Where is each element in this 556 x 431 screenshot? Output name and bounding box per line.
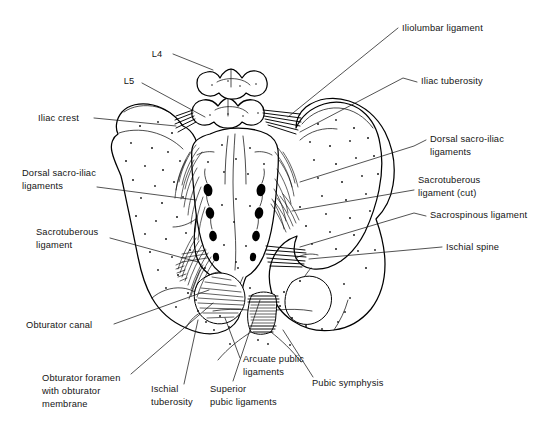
label-line: Iliolumbar ligament xyxy=(402,23,483,33)
leader-line-l4 xyxy=(173,54,213,70)
leader-line-sacrotuberous-ligament-cut xyxy=(292,190,414,211)
label-line: Sacrospinous ligament xyxy=(430,210,527,220)
label-l4: L4 xyxy=(152,49,163,59)
label-line: Sacrotuberous xyxy=(418,175,481,185)
label-line: Dorsal sacro-iliac xyxy=(22,168,96,178)
pelvis-ligaments-diagram: L4L5Iliac crestDorsal sacro-iliacligamen… xyxy=(0,0,556,431)
label-iliolumbar-ligament: Iliolumbar ligament xyxy=(402,23,483,33)
leader-line-iliolumbar-ligament xyxy=(288,28,398,117)
label-texts: L4L5Iliac crestDorsal sacro-iliacligamen… xyxy=(22,23,527,409)
label-dorsal-sacro-iliac-ligaments-left: Dorsal sacro-iliacligaments xyxy=(22,168,96,191)
label-line: Pubic symphysis xyxy=(312,378,384,388)
label-ischial-spine: Ischial spine xyxy=(446,242,499,252)
label-line: Obturator foramen xyxy=(42,373,121,383)
leader-line-dorsal-sacro-iliac-ligaments-right xyxy=(300,140,426,182)
label-line: L4 xyxy=(152,49,163,59)
label-superior-pubic-ligaments: Superiorpubic ligaments xyxy=(210,384,277,407)
label-line: with obturator xyxy=(41,386,100,396)
label-line: L5 xyxy=(124,76,135,86)
label-line: Superior xyxy=(210,384,246,394)
label-obturator-foramen: Obturator foramenwith obturatormembrane xyxy=(41,373,121,409)
label-line: Iliac crest xyxy=(38,113,79,123)
label-line: Dorsal sacro-iliac xyxy=(430,134,504,144)
label-sacrotuberous-ligament-cut: Sacrotuberousligament (cut) xyxy=(418,175,481,198)
label-obturator-canal: Obturator canal xyxy=(26,320,92,330)
label-line: pubic ligaments xyxy=(210,397,277,407)
label-iliac-crest: Iliac crest xyxy=(38,113,79,123)
label-line: ligament xyxy=(36,240,73,250)
label-dorsal-sacro-iliac-ligaments-right: Dorsal sacro-iliacligaments xyxy=(430,134,504,157)
label-line: Sacrotuberous xyxy=(36,227,99,237)
label-line: Ischial xyxy=(151,384,178,394)
label-iliac-tuberosity: Iliac tuberosity xyxy=(421,76,483,86)
label-line: tuberosity xyxy=(151,397,193,407)
label-l5: L5 xyxy=(124,76,135,86)
label-line: membrane xyxy=(42,399,88,409)
label-line: ligaments xyxy=(22,181,63,191)
label-sacrotuberous-ligament-left: Sacrotuberousligament xyxy=(36,227,99,250)
label-line: ligaments xyxy=(243,367,284,377)
label-line: Iliac tuberosity xyxy=(421,76,483,86)
label-ischial-tuberosity: Ischialtuberosity xyxy=(151,384,193,407)
l5-vertebra xyxy=(192,98,264,128)
label-line: ligament (cut) xyxy=(418,188,476,198)
label-line: Arcuate public xyxy=(243,354,304,364)
label-line: Obturator canal xyxy=(26,320,92,330)
label-line: Ischial spine xyxy=(446,242,499,252)
label-line: ligaments xyxy=(430,147,471,157)
right-hip-bone xyxy=(269,98,394,330)
label-arcuate-pubic-ligaments: Arcuate publicligaments xyxy=(243,354,304,377)
anatomy-artwork xyxy=(111,69,394,362)
anatomy-figure: L4L5Iliac crestDorsal sacro-iliacligamen… xyxy=(0,0,556,431)
label-sacrospinous-ligament: Sacrospinous ligament xyxy=(430,210,527,220)
label-pubic-symphysis: Pubic symphysis xyxy=(312,378,384,388)
